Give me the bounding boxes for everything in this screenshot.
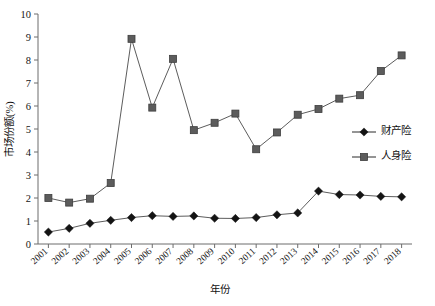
series-line-人身险 <box>48 39 401 203</box>
x-tick-label-2009: 2009 <box>195 246 216 266</box>
data-point <box>252 213 260 221</box>
data-point <box>377 68 384 75</box>
x-tick-label-2001: 2001 <box>29 246 50 266</box>
data-point <box>211 119 218 126</box>
y-tick-label-5: 5 <box>26 124 31 135</box>
legend-item-人身险[interactable]: 人身险 <box>352 149 412 161</box>
data-point <box>86 195 93 202</box>
x-tick-label-2018: 2018 <box>382 246 403 266</box>
legend-label: 财产险 <box>381 124 412 136</box>
y-tick-label-3: 3 <box>26 170 31 181</box>
x-tick-label-2017: 2017 <box>361 246 382 266</box>
data-point <box>148 212 156 220</box>
data-point <box>273 129 280 136</box>
y-tick-label-7: 7 <box>26 78 31 89</box>
legend-diamond-icon <box>360 128 368 136</box>
data-point <box>65 224 73 232</box>
x-tick-label-2011: 2011 <box>237 246 258 266</box>
data-point <box>315 105 322 112</box>
data-point <box>232 110 239 117</box>
data-point <box>294 111 301 118</box>
data-point <box>127 213 135 221</box>
x-tick-label-2005: 2005 <box>112 246 133 266</box>
data-point <box>170 55 177 62</box>
x-tick-label-2003: 2003 <box>70 246 91 266</box>
x-tick-label-2002: 2002 <box>50 246 71 266</box>
y-tick-label-2: 2 <box>26 193 31 204</box>
series-人身险 <box>45 35 405 206</box>
x-tick-label-2010: 2010 <box>216 246 237 266</box>
data-point <box>273 211 281 219</box>
data-point <box>357 92 364 99</box>
data-point <box>356 191 364 199</box>
data-point <box>66 199 73 206</box>
data-point <box>44 228 52 236</box>
y-tick-label-1: 1 <box>26 216 31 227</box>
data-point <box>398 193 406 201</box>
series-line-财产险 <box>48 191 401 232</box>
data-point <box>377 192 385 200</box>
data-point <box>107 180 114 187</box>
x-tick-label-2016: 2016 <box>341 246 362 266</box>
x-tick-label-2006: 2006 <box>133 246 154 266</box>
y-axis-title: 市场份额(%) <box>3 101 16 157</box>
data-point <box>169 212 177 220</box>
x-tick-label-2004: 2004 <box>91 246 112 266</box>
x-axis-title: 年份 <box>210 283 231 295</box>
data-point <box>398 52 405 59</box>
data-point <box>149 104 156 111</box>
y-tick-label-0: 0 <box>26 239 31 250</box>
legend-item-财产险[interactable]: 财产险 <box>352 124 412 136</box>
data-point <box>231 214 239 222</box>
x-tick-label-2012: 2012 <box>257 246 278 266</box>
data-point <box>190 212 198 220</box>
y-tick-label-9: 9 <box>26 32 31 43</box>
series-财产险 <box>44 187 405 236</box>
data-point <box>86 219 94 227</box>
data-point <box>45 195 52 202</box>
data-point <box>335 190 343 198</box>
data-point <box>253 146 260 153</box>
data-point <box>336 95 343 102</box>
chart-container: 0123456789102001200220032004200520062007… <box>0 0 435 306</box>
y-tick-label-6: 6 <box>26 101 31 112</box>
x-tick-label-2007: 2007 <box>154 246 175 266</box>
x-tick-label-2013: 2013 <box>278 246 299 266</box>
x-tick-label-2015: 2015 <box>320 246 341 266</box>
y-tick-label-8: 8 <box>26 55 31 66</box>
legend-label: 人身险 <box>381 149 412 161</box>
legend-square-icon <box>361 154 368 161</box>
data-point <box>190 127 197 134</box>
line-chart: 0123456789102001200220032004200520062007… <box>0 0 435 306</box>
data-point <box>107 216 115 224</box>
data-point <box>128 35 135 42</box>
y-tick-label-4: 4 <box>26 147 32 158</box>
y-tick-label-10: 10 <box>21 9 32 20</box>
data-point <box>211 214 219 222</box>
x-tick-label-2014: 2014 <box>299 246 320 266</box>
x-tick-label-2008: 2008 <box>174 246 195 266</box>
